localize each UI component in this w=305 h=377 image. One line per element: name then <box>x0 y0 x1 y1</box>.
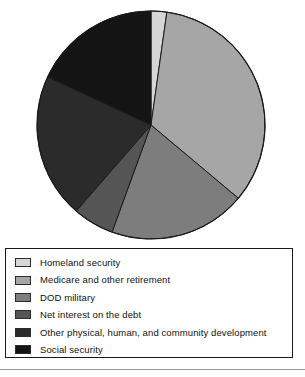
chart-legend: Homeland security Medicare and other ret… <box>5 248 293 358</box>
pie-chart-figure: Homeland security Medicare and other ret… <box>0 0 305 377</box>
legend-item-other-physical-human-and-community-development: Other physical, human, and community dev… <box>15 324 292 341</box>
legend-swatch-net-interest-on-the-debt <box>15 310 31 319</box>
legend-item-medicare-and-other-retirement: Medicare and other retirement <box>15 271 292 288</box>
footer-divider <box>0 369 305 370</box>
legend-item-net-interest-on-the-debt: Net interest on the debt <box>15 306 292 323</box>
legend-label-dod-military: DOD military <box>40 293 95 303</box>
legend-swatch-dod-military <box>15 293 31 302</box>
legend-label-other-physical-human-and-community-development: Other physical, human, and community dev… <box>40 328 267 338</box>
pie-slices-group <box>37 11 265 239</box>
legend-item-homeland-security: Homeland security <box>15 254 292 271</box>
legend-swatch-other-physical-human-and-community-development <box>15 328 31 337</box>
legend-label-homeland-security: Homeland security <box>40 258 120 268</box>
legend-label-social-security: Social security <box>40 345 103 355</box>
legend-label-net-interest-on-the-debt: Net interest on the debt <box>40 310 141 320</box>
legend-item-dod-military: DOD military <box>15 289 292 306</box>
legend-swatch-social-security <box>15 345 31 354</box>
pie-chart-svg <box>0 0 305 245</box>
pie-chart-plot-area <box>0 0 305 245</box>
legend-swatch-medicare-and-other-retirement <box>15 276 31 285</box>
legend-label-medicare-and-other-retirement: Medicare and other retirement <box>40 275 170 285</box>
legend-item-social-security: Social security <box>15 341 292 358</box>
legend-swatch-homeland-security <box>15 258 31 267</box>
